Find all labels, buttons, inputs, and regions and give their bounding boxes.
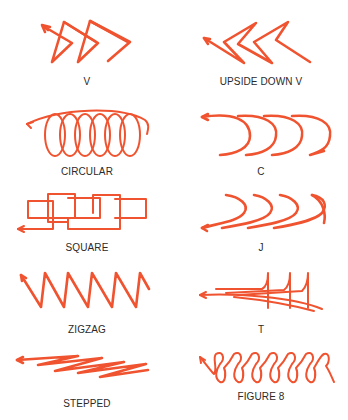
pattern-circular: CIRCULAR: [0, 100, 174, 185]
pattern-label: V: [0, 76, 174, 88]
pattern-label: CIRCULAR: [0, 166, 174, 178]
pattern-v: V: [0, 0, 174, 90]
pattern-label: UPSIDE DOWN V: [174, 76, 348, 88]
pattern-label: SQUARE: [0, 242, 174, 254]
figure-8-pattern-icon: [174, 340, 348, 420]
pattern-figure-8: FIGURE 8: [174, 340, 348, 420]
pattern-label: FIGURE 8: [174, 391, 348, 403]
pattern-square: SQUARE: [0, 185, 174, 265]
pattern-zigzag: ZIGZAG: [0, 265, 174, 345]
pattern-label: C: [174, 166, 348, 178]
pattern-label: ZIGZAG: [0, 324, 174, 336]
pattern-label: T: [174, 324, 348, 336]
pattern-label: J: [174, 242, 348, 254]
pattern-t: T: [174, 265, 348, 345]
pattern-upside-down-v: UPSIDE DOWN V: [174, 0, 348, 90]
pattern-stepped: STEPPED: [0, 340, 174, 420]
pattern-j: J: [174, 185, 348, 265]
pattern-label: STEPPED: [0, 398, 174, 410]
pattern-c: C: [174, 100, 348, 185]
pattern-diagram: V UPSIDE DOWN V CIRCULAR: [0, 0, 348, 420]
